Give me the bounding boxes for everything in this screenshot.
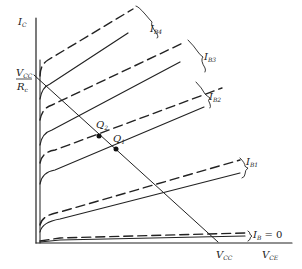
load-line bbox=[34, 75, 218, 242]
vcc-x-intercept-label: VCC bbox=[216, 249, 233, 261]
label-q2: Q2 bbox=[96, 119, 108, 131]
vcc-over-rc-numerator: VCC bbox=[16, 67, 33, 79]
label-ib2: IB2 bbox=[208, 91, 221, 103]
curve-ib1-dashed bbox=[40, 160, 240, 225]
y-axis-label: IC bbox=[17, 16, 27, 28]
label-ib0: IB = 0 bbox=[252, 229, 282, 241]
curve-ib4-dashed bbox=[40, 9, 133, 76]
label-ib3: IB3 bbox=[203, 51, 216, 63]
curve-ib3-solid bbox=[40, 62, 180, 145]
curve-ib3-dashed bbox=[40, 42, 185, 120]
q2-point bbox=[97, 134, 102, 139]
brace-ib3 bbox=[188, 40, 206, 72]
label-ib4: IB4 bbox=[149, 23, 162, 35]
vcc-over-rc-denominator: Rc bbox=[16, 81, 29, 93]
label-q1: Q1 bbox=[113, 133, 125, 145]
brace-ib0 bbox=[248, 231, 252, 241]
curve-ib1-solid bbox=[40, 173, 240, 232]
label-ib1: IB1 bbox=[245, 156, 258, 168]
x-axis-label: VCE bbox=[262, 249, 279, 261]
bjt-characteristics-diagram: IC VCE VCC Rc VCC IB4 IB3 IB2 IB1 IB = 0… bbox=[0, 0, 302, 269]
q1-point bbox=[114, 147, 119, 152]
curve-ib2-dashed bbox=[40, 88, 222, 163]
curve-ib2-solid bbox=[40, 107, 204, 184]
